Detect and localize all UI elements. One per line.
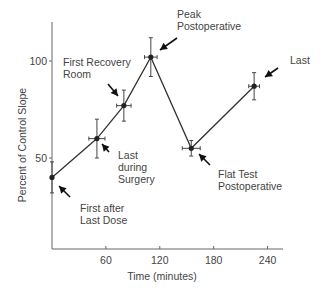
data-point [49, 175, 54, 180]
annotation: First RecoveryRoom [63, 56, 131, 96]
data-point [252, 84, 257, 89]
annotation-text: Room [63, 68, 91, 80]
annotation-text: Last Dose [80, 214, 127, 226]
data-point [121, 103, 126, 108]
x-axis-label: Time (minutes) [127, 270, 197, 282]
annotation-text: Postoperative [177, 20, 241, 32]
annotation-text: Surgery [118, 173, 156, 185]
annotation-text: Last [118, 149, 138, 161]
x-tick-label: 60 [100, 254, 112, 266]
annotation: First afterLast Dose [59, 186, 127, 226]
annotation: PeakPostoperative [160, 8, 241, 50]
data-point [148, 55, 153, 60]
y-axis-label: Percent of Control Slope [16, 88, 28, 203]
annotations: PeakPostoperativeFirst RecoveryRoomLastL… [59, 8, 310, 226]
annotation-text: Flat Test [218, 168, 258, 180]
annotation: LastduringSurgery [102, 144, 156, 185]
annotation-text: Last [290, 54, 310, 66]
y-tick-label: 50 [35, 152, 47, 164]
annotation: Flat TestPostoperative [199, 154, 282, 192]
annotation-text: during [118, 161, 147, 173]
arrowhead-icon [160, 43, 168, 50]
annotation-text: Peak [177, 8, 202, 20]
annotation-text: Postoperative [218, 180, 282, 192]
x-tick-label: 240 [259, 254, 277, 266]
annotation-text: First Recovery [63, 56, 131, 68]
annotation: Last [265, 54, 310, 77]
x-tick-label: 180 [205, 254, 223, 266]
data-point [189, 146, 194, 151]
chart: 5010060120180240 PeakPostoperativeFirst … [0, 0, 321, 292]
y-tick-label: 100 [29, 55, 47, 67]
arrowhead-icon [265, 70, 273, 77]
annotation-text: First after [80, 202, 125, 214]
x-tick-label: 120 [151, 254, 169, 266]
data-point [94, 136, 99, 141]
